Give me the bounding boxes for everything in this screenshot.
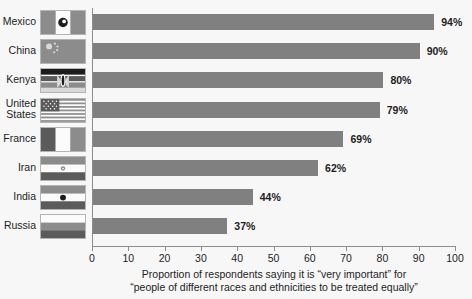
bar: [93, 72, 383, 88]
chart-row: Russia 37%: [0, 212, 472, 241]
country-label: Kenya: [0, 74, 36, 86]
x-axis-tick-label: 80: [377, 252, 389, 264]
x-axis-tick-label: 50: [268, 252, 280, 264]
chart-row: France 69%: [0, 125, 472, 154]
x-axis-tick-mark: [455, 247, 456, 251]
bar: [93, 131, 343, 147]
bar-value-label: 80%: [390, 72, 411, 88]
x-axis-tick-mark: [382, 247, 383, 251]
country-label: France: [0, 133, 36, 145]
bar-value-label: 69%: [350, 131, 371, 147]
x-axis-tick-label: 0: [89, 252, 95, 264]
country-label: India: [0, 191, 36, 203]
country-label-line: Mexico: [0, 16, 36, 28]
country-label: Russia: [0, 220, 36, 232]
x-axis-tick-mark: [128, 247, 129, 251]
country-label-line: Iran: [0, 162, 36, 174]
flag-mexico-icon: [40, 10, 86, 35]
x-axis-caption: Proportion of respondents saying it is “…: [92, 268, 456, 294]
country-label-line: Kenya: [0, 74, 36, 86]
chart-row: Iran 62%: [0, 154, 472, 183]
country-label: Iran: [0, 162, 36, 174]
chart-row: China 90%: [0, 37, 472, 66]
flag-iran-icon: [40, 156, 86, 181]
x-axis-tick-label: 100: [446, 252, 464, 264]
x-axis-tick-label: 10: [122, 252, 134, 264]
flag-russia-icon: [40, 214, 86, 239]
bar-value-label: 94%: [441, 14, 462, 30]
country-label-line: China: [0, 45, 36, 57]
bar: [93, 43, 420, 59]
x-axis-tick-label: 20: [159, 252, 171, 264]
country-label-line: France: [0, 133, 36, 145]
x-axis-caption-line-1: Proportion of respondents saying it is “…: [92, 268, 456, 281]
bar: [93, 189, 253, 205]
flag-france-icon: [40, 127, 86, 152]
x-axis-tick-label: 40: [231, 252, 243, 264]
x-axis-tick-label: 90: [413, 252, 425, 264]
x-axis-tick-label: 60: [304, 252, 316, 264]
country-label-line: Russia: [0, 220, 36, 232]
chart-row: Mexico 94%: [0, 8, 472, 37]
flag-united-states-icon: [40, 98, 86, 123]
bar: [93, 102, 380, 118]
flag-india-icon: [40, 185, 86, 210]
chart-row: Kenya 80%: [0, 66, 472, 95]
x-axis-tick-mark: [237, 247, 238, 251]
bar: [93, 14, 434, 30]
horizontal-bar-chart: 0102030405060708090100 Mexico 94%China 9…: [0, 0, 472, 299]
x-axis-tick-mark: [201, 247, 202, 251]
country-label: Mexico: [0, 16, 36, 28]
x-axis-tick-mark: [310, 247, 311, 251]
bar-value-label: 62%: [325, 160, 346, 176]
country-label: UnitedStates: [0, 98, 36, 121]
bar-value-label: 37%: [234, 218, 255, 234]
x-axis-tick-label: 70: [340, 252, 352, 264]
x-axis-tick-mark: [346, 247, 347, 251]
chart-row: India 44%: [0, 183, 472, 212]
x-axis-tick-mark: [419, 247, 420, 251]
bar: [93, 160, 318, 176]
bar-value-label: 79%: [387, 102, 408, 118]
chart-row: UnitedStates 79%: [0, 96, 472, 125]
x-axis-tick-label: 30: [195, 252, 207, 264]
bar: [93, 218, 227, 234]
flag-china-icon: [40, 39, 86, 64]
x-axis-tick-mark: [92, 247, 93, 251]
flag-kenya-icon: [40, 68, 86, 93]
country-label: China: [0, 45, 36, 57]
country-label-line: India: [0, 191, 36, 203]
country-label-line: States: [0, 109, 36, 121]
x-axis-tick-mark: [165, 247, 166, 251]
x-axis-caption-line-2: “people of different races and ethniciti…: [92, 281, 456, 294]
bar-value-label: 44%: [260, 189, 281, 205]
bar-value-label: 90%: [427, 43, 448, 59]
x-axis-tick-mark: [274, 247, 275, 251]
